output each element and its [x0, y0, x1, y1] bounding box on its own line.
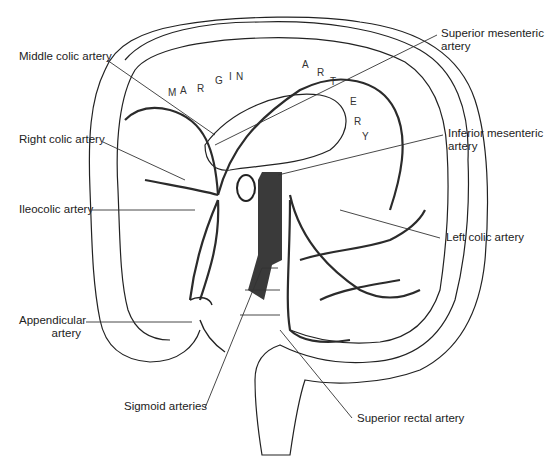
label-inf-mes-line2: artery [448, 140, 543, 153]
svg-text:Y: Y [362, 131, 369, 142]
label-right-colic-artery: Right colic artery [19, 133, 105, 146]
label-inferior-mesenteric-artery: Inferior mesenteric artery [448, 127, 543, 153]
svg-text:A: A [180, 85, 187, 96]
label-appendicular-line2: artery [19, 327, 81, 340]
svg-text:R: R [197, 83, 204, 94]
svg-text:N: N [236, 71, 243, 82]
label-ileocolic-artery: Ileocolic artery [19, 203, 93, 216]
svg-text:I: I [229, 71, 232, 82]
svg-text:G: G [215, 75, 223, 86]
svg-text:M: M [168, 87, 176, 98]
label-sup-mes-line2: artery [441, 40, 544, 53]
svg-text:A: A [302, 59, 309, 70]
colon-arterial-diagram: MAR GIN ART ERY Middle colic artery Righ… [0, 0, 547, 474]
label-middle-colic-artery: Middle colic artery [19, 50, 112, 63]
svg-text:R: R [317, 67, 324, 78]
svg-text:R: R [354, 116, 361, 127]
label-inf-mes-line1: Inferior mesenteric [448, 127, 543, 140]
label-sigmoid-arteries: Sigmoid arteries [124, 400, 207, 413]
svg-text:E: E [350, 96, 357, 107]
label-superior-mesenteric-artery: Superior mesenteric artery [441, 27, 544, 53]
transverse-mesocolon [205, 94, 346, 170]
label-appendicular-line1: Appendicular [19, 314, 81, 327]
sma-cut-end [237, 175, 255, 201]
label-appendicular-artery: Appendicular artery [19, 314, 81, 340]
label-left-colic-artery: Left colic artery [446, 231, 524, 244]
label-sup-mes-line1: Superior mesenteric [441, 27, 544, 40]
svg-text:T: T [330, 76, 336, 87]
label-superior-rectal-artery: Superior rectal artery [357, 412, 464, 425]
